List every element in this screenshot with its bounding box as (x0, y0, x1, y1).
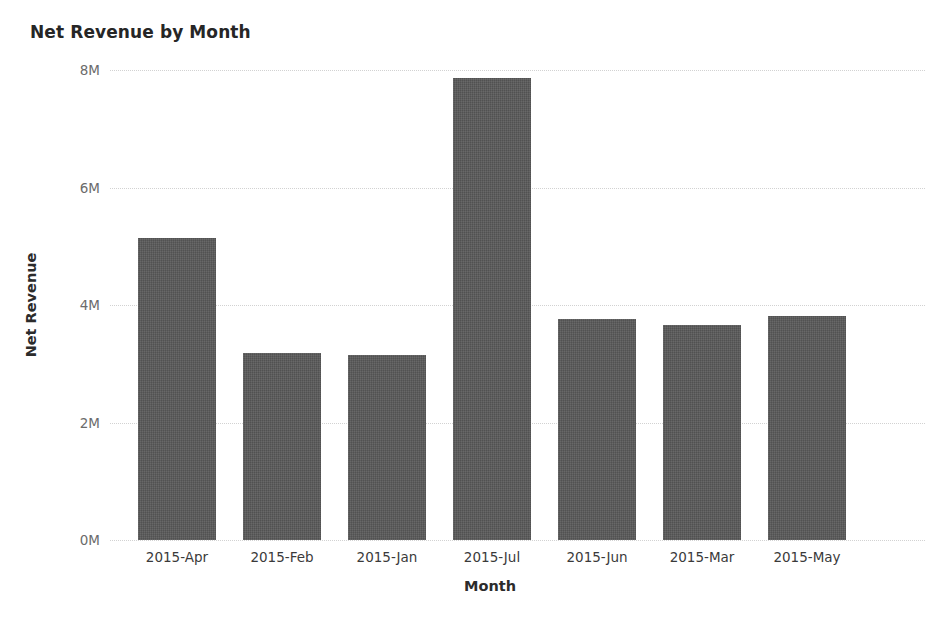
plot-area: 0M2M4M6M8M 2015-Apr2015-Feb2015-Jan2015-… (110, 70, 925, 540)
y-tick-label: 0M (80, 532, 100, 548)
y-axis-title: Net Revenue (23, 253, 39, 358)
chart-title: Net Revenue by Month (30, 22, 251, 42)
y-tick-label: 8M (80, 62, 100, 78)
bar-group[interactable]: 2015-Feb (243, 70, 321, 540)
x-tick-label: 2015-Jun (566, 549, 627, 565)
x-axis-title: Month (464, 578, 516, 594)
x-tick-label: 2015-Apr (146, 549, 208, 565)
bar-group[interactable]: 2015-Jul (453, 70, 531, 540)
bar[interactable] (453, 78, 531, 540)
bar-group[interactable]: 2015-May (768, 70, 846, 540)
bar-group[interactable]: 2015-Jun (558, 70, 636, 540)
bar[interactable] (663, 325, 741, 540)
bar-chart: Net Revenue by Month Net Revenue 0M2M4M6… (0, 0, 932, 636)
bar[interactable] (348, 355, 426, 540)
bar-group[interactable]: 2015-Apr (138, 70, 216, 540)
y-tick-label: 2M (80, 415, 100, 431)
bar[interactable] (243, 353, 321, 540)
gridline (110, 540, 925, 541)
bar-group[interactable]: 2015-Jan (348, 70, 426, 540)
bar-group[interactable]: 2015-Mar (663, 70, 741, 540)
bar[interactable] (558, 319, 636, 540)
x-tick-label: 2015-Jul (464, 549, 520, 565)
x-tick-label: 2015-Mar (670, 549, 735, 565)
bar[interactable] (768, 316, 846, 540)
bars-layer: 2015-Apr2015-Feb2015-Jan2015-Jul2015-Jun… (110, 70, 925, 540)
x-tick-label: 2015-May (773, 549, 840, 565)
x-tick-label: 2015-Jan (357, 549, 418, 565)
y-tick-label: 6M (80, 180, 100, 196)
bar[interactable] (138, 238, 216, 540)
y-tick-label: 4M (80, 297, 100, 313)
x-tick-label: 2015-Feb (250, 549, 313, 565)
